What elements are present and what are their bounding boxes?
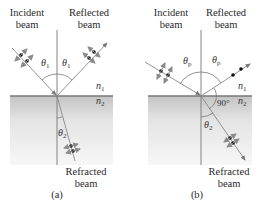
incident-beam-label-line2: beam [160,19,183,30]
n1-label: n1 [238,80,247,93]
refracted-beam-label-line2: beam [75,178,98,189]
right-angle-label: 90° [217,98,230,108]
angle-arc-reflected [57,74,72,80]
angle-arc-reflected [201,72,221,83]
refracted-beam-label-line1: Refracted [209,166,251,177]
theta1-reflected-label: θ1 [62,57,71,70]
medium-n2-region [148,96,252,165]
reflected-beam-label-line2: beam [215,19,238,30]
panel-caption-b: (b) [191,189,204,201]
n1-label: n1 [96,80,105,93]
polarization-markers-incident [15,49,33,67]
panel-a: Incident beam Reflected beam θ1 θ1 θ2 n1… [10,7,113,201]
panel-caption-a: (a) [51,189,63,201]
refracted-beam-label-line1: Refracted [66,166,108,177]
incident-beam-label-line1: Incident [154,7,188,18]
polarization-markers-reflected [83,47,100,63]
angle-arc-incident [180,72,201,84]
incident-ray [145,62,200,95]
reflected-beam-label-line1: Reflected [69,7,110,18]
theta-p-reflected-label: θp [212,54,221,67]
refracted-beam-label-line2: beam [218,178,241,189]
theta1-incident-label: θ1 [41,57,50,70]
angle-arc-incident [42,74,57,80]
polarization-by-reflection-diagram: Incident beam Reflected beam θ1 θ1 θ2 n1… [0,0,255,202]
incident-ray [12,48,56,95]
reflected-beam-label-line1: Reflected [206,7,247,18]
incident-beam-label-line2: beam [16,19,39,30]
polarization-markers-incident [157,63,172,83]
panel-b: Incident beam Reflected beam θp θp θ2 90… [145,7,252,201]
theta-p-incident-label: θp [183,55,192,68]
incident-beam-label-line1: Incident [10,7,44,18]
reflected-beam-label-line2: beam [78,19,101,30]
